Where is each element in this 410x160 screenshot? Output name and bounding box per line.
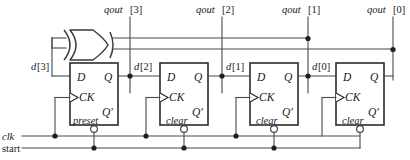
qout1-index: [1] (308, 4, 320, 15)
junction-start-ff2 (181, 145, 186, 150)
junction-ff2-q-qout2 (219, 73, 224, 78)
qout1-label: qout (282, 4, 302, 15)
ff0-ck-label: CK (345, 91, 362, 103)
xor-gate-body (70, 30, 108, 60)
qout3-label: qout (104, 4, 124, 15)
qout2-label: qout (196, 4, 216, 15)
ff2-mode-label: clear (166, 115, 188, 126)
junction-clk-ff3 (52, 133, 57, 138)
ff3-ck-label: CK (79, 91, 96, 103)
junction-start-ff1 (271, 145, 276, 150)
ff3-qn-label: Q' (102, 106, 113, 118)
qout0-label: qout (367, 4, 387, 15)
qout2-index: [2] (222, 4, 234, 15)
ff3-q-label: Q (104, 71, 113, 83)
clk-label: clk (2, 131, 15, 142)
qout3-index: [3] (130, 4, 142, 15)
ff3-d-label: D (76, 71, 86, 83)
d0-index: [0] (318, 61, 330, 72)
junction-ff3-q-qout3 (127, 73, 132, 78)
ff1-clear-bubble (271, 126, 278, 133)
ff0-clear-bubble (357, 126, 364, 133)
ff2-q-label: Q (194, 71, 203, 83)
junction-clk-ff2 (143, 133, 148, 138)
xor-gate-arc (64, 30, 70, 60)
ff3-mode-label: preset (72, 115, 99, 126)
d2-index: [2] (140, 61, 152, 72)
start-label: start (2, 143, 20, 154)
ff2-ck-label: CK (169, 91, 186, 103)
ff1-d-label: D (256, 71, 266, 83)
circuit-diagram: qout [3] qout [2] qout [1] qout [0] d [3… (0, 0, 410, 160)
d3-index: [3] (37, 61, 49, 72)
ff3-preset-bubble (91, 126, 98, 133)
d1-index: [1] (232, 61, 244, 72)
qout0-index: [0] (393, 4, 405, 15)
xor-gate-output-arc (110, 32, 113, 58)
junction-start-ff3 (91, 145, 96, 150)
junction-qout1-feedback (305, 36, 310, 41)
ff0-q-label: Q (370, 71, 379, 83)
ff1-mode-label: clear (256, 115, 278, 126)
ff2-clear-bubble (181, 126, 188, 133)
ff1-ck-label: CK (259, 91, 276, 103)
ff0-qn-label: Q' (368, 106, 379, 118)
ff1-q-label: Q (284, 71, 293, 83)
junction-ff1-q-qout1 (305, 73, 310, 78)
ff1-qn-label: Q' (282, 106, 293, 118)
ff2-d-label: D (166, 71, 176, 83)
junction-qout0-feedback (390, 47, 395, 52)
ff2-qn-label: Q' (192, 106, 203, 118)
ff0-mode-label: clear (342, 115, 364, 126)
junction-clk-ff1 (233, 133, 238, 138)
ff0-d-label: D (342, 71, 352, 83)
circuit-svg: qout [3] qout [2] qout [1] qout [0] d [3… (0, 0, 410, 160)
